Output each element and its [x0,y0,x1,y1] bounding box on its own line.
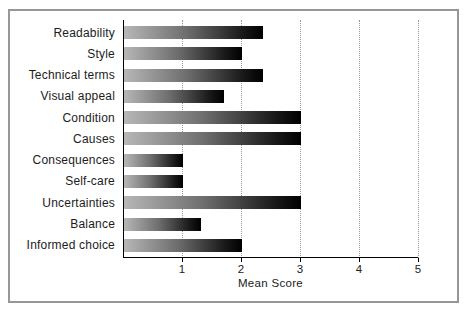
tick-label-4: 4 [349,263,369,275]
tick-label-3: 3 [290,263,310,275]
bar-row: Informed choice [12,239,424,252]
category-label: Condition [12,111,115,125]
bar [124,69,263,82]
category-label: Uncertainties [12,196,115,210]
tick-label-1: 1 [172,263,192,275]
bar [124,111,301,124]
bar-row: Self-care [12,175,424,188]
bar-row: Uncertainties [12,196,424,209]
bar [124,196,301,209]
bar-row: Condition [12,111,424,124]
bar [124,132,301,145]
tick-mark-2 [241,258,242,262]
category-label: Technical terms [12,68,115,82]
tick-mark-5 [418,258,419,262]
category-label: Informed choice [12,238,115,252]
bar [124,218,201,231]
category-label: Visual appeal [12,89,115,103]
category-label: Readability [12,26,115,40]
bar-row: Causes [12,132,424,145]
bar [124,26,263,39]
category-label: Causes [12,132,115,146]
tick-mark-1 [182,258,183,262]
bar-row: Readability [12,26,424,39]
bar [124,90,224,103]
category-label: Balance [12,217,115,231]
tick-label-5: 5 [408,263,428,275]
category-label: Consequences [12,153,115,167]
tick-label-2: 2 [231,263,251,275]
bar-row: Technical terms [12,69,424,82]
category-label: Self-care [12,174,115,188]
bar [124,239,242,252]
chart-screenshot: ReadabilityStyleTechnical termsVisual ap… [0,0,467,311]
bar [124,175,183,188]
tick-mark-4 [359,258,360,262]
bar-rows: ReadabilityStyleTechnical termsVisual ap… [12,22,424,256]
bar [124,154,183,167]
bar-row: Visual appeal [12,90,424,103]
x-axis-title: Mean Score [123,277,418,289]
bar [124,47,242,60]
bar-row: Consequences [12,154,424,167]
bar-row: Balance [12,218,424,231]
bar-row: Style [12,47,424,60]
category-label: Style [12,47,115,61]
tick-mark-3 [300,258,301,262]
